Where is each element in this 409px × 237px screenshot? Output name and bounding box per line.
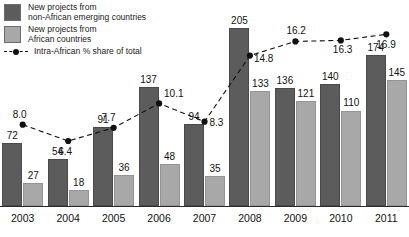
line-label-2005: 7.7 [102,113,116,123]
line-label-2004: 6.4 [58,147,72,157]
line-label-2011: 16.9 [376,40,395,50]
line-label-2008: 14.8 [254,54,273,64]
x-tick-2005: 2005 [91,212,136,224]
x-tick-2010: 2010 [318,212,363,224]
x-tick-2011: 2011 [364,212,409,224]
line-marker-2004 [65,138,71,144]
line-label-2010: 16.3 [333,45,352,55]
line-label-2009: 16.2 [286,26,305,36]
x-tick-2007: 2007 [182,212,227,224]
line-marker-2007 [201,119,207,125]
line-marker-2006 [156,100,162,106]
line-marker-2011 [383,31,389,37]
line-series-overlay [0,0,409,207]
line-label-2003: 8.0 [13,110,27,120]
x-tick-2008: 2008 [227,212,272,224]
line-marker-2009 [292,38,298,44]
x-tick-2006: 2006 [136,212,181,224]
line-marker-2005 [111,125,117,131]
intra-african-line [23,34,387,141]
x-axis-labels: 200320042005200620072008200920102011 [0,208,409,228]
x-tick-2003: 2003 [0,212,45,224]
line-marker-2008 [247,53,253,59]
line-label-2006: 10.1 [164,89,183,99]
line-marker-2010 [338,37,344,43]
x-tick-2009: 2009 [273,212,318,224]
x-tick-2004: 2004 [45,212,90,224]
chart-container: New projects from non-African emerging c… [0,0,409,237]
line-label-2007: 8.3 [210,118,224,128]
line-marker-2003 [20,122,26,128]
